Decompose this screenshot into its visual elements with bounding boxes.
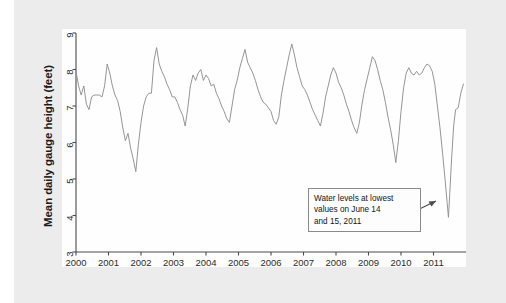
x-axis-tick-label: 2011 (411, 257, 457, 268)
y-axis-tick-label: 5 (64, 179, 75, 195)
y-axis-tick-label: 6 (64, 142, 75, 158)
figure-page: Mean daily gauge height (feet) 3456789 2… (0, 0, 506, 303)
annotation-line-3: and 15, 2011 (314, 216, 415, 227)
y-axis-tick-label: 9 (64, 33, 75, 49)
y-axis-title: Mean daily gauge height (feet) (42, 36, 54, 256)
lowest-water-level-annotation: Water levels at lowest values on June 14… (308, 188, 421, 232)
y-axis-tick-label: 7 (64, 106, 75, 122)
annotation-line-1: Water levels at lowest (314, 193, 415, 204)
annotation-line-2: values on June 14 (314, 204, 415, 215)
y-axis-tick-label: 4 (64, 215, 75, 231)
y-axis-tick-label: 8 (64, 69, 75, 85)
